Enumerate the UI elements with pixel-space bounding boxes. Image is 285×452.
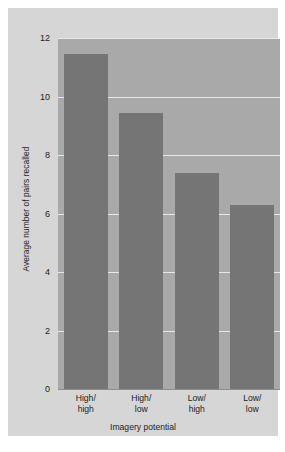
bar[interactable] bbox=[119, 113, 163, 389]
y-axis-tick-label: 10 bbox=[8, 92, 50, 102]
category-label-line: High/ bbox=[58, 393, 114, 404]
y-axis-tick-label: 12 bbox=[8, 33, 50, 43]
y-axis-tick-label: 4 bbox=[8, 267, 50, 277]
chart-card: Average number of pairs recalled 0246810… bbox=[8, 8, 278, 436]
bar[interactable] bbox=[175, 173, 219, 389]
category-label-line: high bbox=[58, 404, 114, 415]
x-axis-category-label: High/high bbox=[58, 393, 114, 414]
y-axis-tick-label: 2 bbox=[8, 326, 50, 336]
bar[interactable] bbox=[230, 205, 274, 389]
category-label-line: low bbox=[225, 404, 281, 415]
y-axis-tick-label: 0 bbox=[8, 384, 50, 394]
category-label-line: Low/ bbox=[225, 393, 281, 404]
x-axis-category-label: High/low bbox=[114, 393, 170, 414]
x-axis-category-label: Low/low bbox=[225, 393, 281, 414]
bar[interactable] bbox=[64, 54, 108, 389]
x-axis-title: Imagery potential bbox=[8, 422, 278, 432]
category-label-line: low bbox=[114, 404, 170, 415]
x-axis-baseline bbox=[58, 389, 280, 390]
y-axis-tick-labels: 024681012 bbox=[8, 30, 50, 400]
gridline bbox=[58, 38, 280, 39]
y-axis-tick-label: 8 bbox=[8, 150, 50, 160]
category-label-line: high bbox=[169, 404, 225, 415]
plot-area bbox=[58, 38, 280, 389]
y-axis-tick-label: 6 bbox=[8, 209, 50, 219]
category-label-line: Low/ bbox=[169, 393, 225, 404]
x-axis-category-label: Low/high bbox=[169, 393, 225, 414]
category-label-line: High/ bbox=[114, 393, 170, 404]
x-axis-category-labels: High/highHigh/lowLow/highLow/low bbox=[58, 393, 280, 423]
